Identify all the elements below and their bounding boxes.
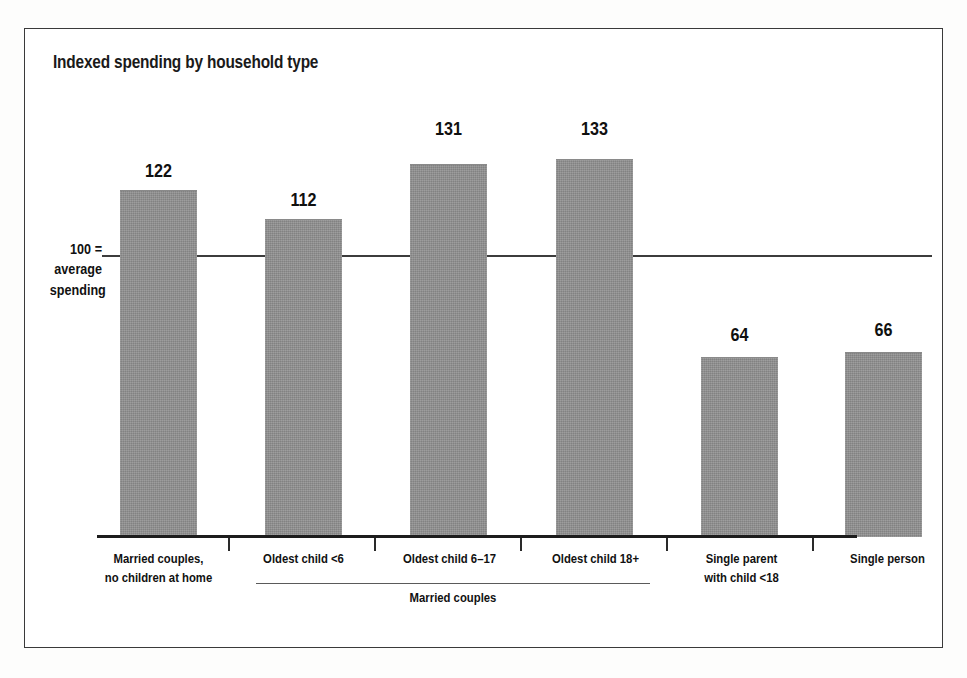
axis-tick xyxy=(228,538,230,551)
axis-tick xyxy=(520,538,522,551)
category-label-line-1: Single person xyxy=(826,550,949,569)
category-label-single-person: Single person xyxy=(826,550,949,569)
bar-married-couples-no-children xyxy=(120,190,197,537)
bar-oldest-child-18-plus xyxy=(556,159,633,537)
category-label-line-1: Oldest child 6–17 xyxy=(388,550,511,569)
axis-tick xyxy=(666,538,668,551)
bar-value-label: 133 xyxy=(562,118,627,140)
y-axis-caption: 100 = average spending xyxy=(50,239,102,300)
category-label-line-1: Single parent xyxy=(680,550,803,569)
axis-tick xyxy=(374,538,376,551)
bar-value-label: 131 xyxy=(416,118,481,140)
y-axis-caption-line-1: 100 = xyxy=(50,239,102,259)
group-bracket-label: Married couples xyxy=(282,590,625,605)
category-label-oldest-child-under-6: Oldest child <6 xyxy=(242,550,365,569)
bar-value-label: 64 xyxy=(707,324,772,346)
category-label-line-1: Oldest child 18+ xyxy=(534,550,657,569)
category-label-line-1: Married couples, xyxy=(97,550,220,569)
y-axis-caption-line-2: average xyxy=(50,259,102,279)
group-bracket-rule xyxy=(256,583,650,584)
y-axis-caption-line-3: spending xyxy=(50,280,102,300)
bar-single-parent-with-child xyxy=(701,357,778,537)
category-label-line-2: with child <18 xyxy=(680,569,803,588)
reference-line-100 xyxy=(102,255,932,257)
bar-single-person xyxy=(845,352,922,537)
bar-oldest-child-6-17 xyxy=(410,164,487,537)
x-axis-line xyxy=(97,535,857,538)
plot-area: 100 = average spending 122 112 131 133 6… xyxy=(0,0,967,678)
axis-tick xyxy=(812,538,814,551)
category-label-single-parent-with-child: Single parent with child <18 xyxy=(680,550,803,588)
category-label-line-2: no children at home xyxy=(97,569,220,588)
category-label-married-couples-no-children: Married couples, no children at home xyxy=(97,550,220,588)
category-label-line-1: Oldest child <6 xyxy=(242,550,365,569)
bar-value-label: 112 xyxy=(271,189,336,211)
bar-oldest-child-under-6 xyxy=(265,219,342,537)
chart-page: Indexed spending by household type 100 =… xyxy=(0,0,967,678)
bar-value-label: 66 xyxy=(851,319,916,341)
bar-value-label: 122 xyxy=(126,160,191,182)
category-label-oldest-child-18-plus: Oldest child 18+ xyxy=(534,550,657,569)
category-label-oldest-child-6-17: Oldest child 6–17 xyxy=(388,550,511,569)
